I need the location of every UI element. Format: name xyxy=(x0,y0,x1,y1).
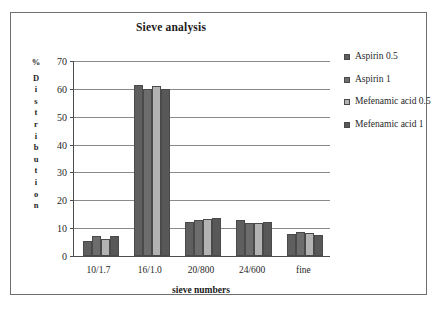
legend-swatch-icon xyxy=(344,77,350,83)
bar[interactable] xyxy=(203,219,212,256)
chart-legend: Aspirin 0.5Aspirin 1Mefenamic acid 0.5Me… xyxy=(344,51,441,141)
y-axis-tick xyxy=(70,256,74,257)
legend-item[interactable]: Mefenamic acid 1 xyxy=(344,119,441,131)
y-axis-tick xyxy=(70,117,74,118)
bar[interactable] xyxy=(110,236,119,256)
y-axis-tick xyxy=(70,61,74,62)
bar[interactable] xyxy=(296,232,305,256)
y-axis-label-char: s xyxy=(25,96,47,108)
y-axis-tick xyxy=(70,89,74,90)
y-axis-label-char: t xyxy=(25,107,47,119)
bar-group xyxy=(185,61,221,256)
bar[interactable] xyxy=(212,218,221,256)
bar[interactable] xyxy=(254,223,263,256)
bar[interactable] xyxy=(185,222,194,256)
legend-swatch-icon xyxy=(344,54,350,60)
x-axis-tick-label: 16/1.0 xyxy=(124,265,175,275)
y-axis-tick xyxy=(70,200,74,201)
legend-label: Mefenamic acid 1 xyxy=(355,119,424,129)
x-axis-tick-label: 10/1.7 xyxy=(73,265,124,275)
y-axis-tick xyxy=(70,145,74,146)
bar-group xyxy=(83,61,119,256)
y-axis-label-char: n xyxy=(25,200,47,212)
chart-frame: Sieve analysis %Distribution 70605040302… xyxy=(10,12,427,295)
x-axis-tick-label: 24/600 xyxy=(227,265,278,275)
bar[interactable] xyxy=(236,220,245,256)
y-axis-tick xyxy=(70,172,74,173)
y-axis-label-char: b xyxy=(25,142,47,154)
y-axis-tick-label: 10 xyxy=(57,223,67,234)
x-axis-tick-label: 20/800 xyxy=(175,265,226,275)
y-axis-label-char: t xyxy=(25,165,47,177)
y-axis-tick xyxy=(70,228,74,229)
bar-group xyxy=(236,61,272,256)
bars-layer xyxy=(75,61,331,256)
bar[interactable] xyxy=(314,235,323,256)
bar-group xyxy=(287,61,323,256)
bar[interactable] xyxy=(161,89,170,256)
bar[interactable] xyxy=(92,236,101,256)
y-axis-label: %Distribution xyxy=(25,57,47,212)
bar[interactable] xyxy=(143,89,152,256)
legend-swatch-icon xyxy=(344,122,350,128)
bar[interactable] xyxy=(134,85,143,256)
y-axis-label-char: u xyxy=(25,154,47,166)
legend-item[interactable]: Aspirin 1 xyxy=(344,74,441,86)
y-axis-tick-label: 20 xyxy=(57,195,67,206)
x-axis-tick-label: fine xyxy=(278,265,329,275)
bar[interactable] xyxy=(152,86,161,256)
legend-swatch-icon xyxy=(344,99,350,105)
y-axis-tick-label: 50 xyxy=(57,111,67,122)
y-axis-tick-label: 60 xyxy=(57,83,67,94)
bar[interactable] xyxy=(194,220,203,256)
bar[interactable] xyxy=(305,233,314,256)
bar-group xyxy=(134,61,170,256)
bar[interactable] xyxy=(287,234,296,256)
y-axis-label-char: D xyxy=(25,73,47,85)
plot-area: 706050403020100 xyxy=(73,61,330,257)
y-axis-label-char: i xyxy=(25,131,47,143)
y-axis-tick-label: 30 xyxy=(57,167,67,178)
y-axis-label-char: i xyxy=(25,84,47,96)
y-axis-tick-label: 40 xyxy=(57,139,67,150)
bar[interactable] xyxy=(101,239,110,256)
y-axis-tick-label: 70 xyxy=(57,56,67,67)
bar[interactable] xyxy=(245,223,254,256)
y-axis-tick-label: 0 xyxy=(62,251,67,262)
chart-title: Sieve analysis xyxy=(11,21,331,33)
bar[interactable] xyxy=(83,241,92,256)
x-axis-label: sieve numbers xyxy=(73,285,329,295)
y-axis-label-char: r xyxy=(25,119,47,131)
legend-label: Aspirin 0.5 xyxy=(355,51,398,61)
legend-label: Aspirin 1 xyxy=(355,74,391,84)
legend-item[interactable]: Aspirin 0.5 xyxy=(344,51,441,63)
legend-label: Mefenamic acid 0.5 xyxy=(355,96,431,106)
y-axis-label-char: o xyxy=(25,189,47,201)
y-axis-label-char: i xyxy=(25,177,47,189)
y-axis-label-char: % xyxy=(25,57,47,69)
bar[interactable] xyxy=(263,222,272,256)
legend-item[interactable]: Mefenamic acid 0.5 xyxy=(344,96,441,108)
